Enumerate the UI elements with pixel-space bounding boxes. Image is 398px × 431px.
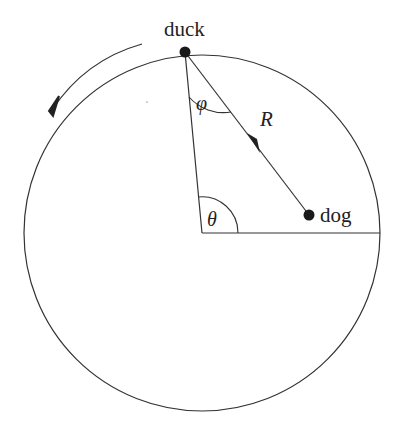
phi-label: φ — [196, 92, 207, 115]
theta-label: θ — [207, 208, 217, 230]
dog-duck-line — [185, 52, 309, 215]
direction-arrow — [52, 44, 142, 110]
duck-dog-diagram: duck dog R φ θ — [0, 0, 398, 431]
theta-arc — [198, 197, 238, 233]
dog-label: dog — [320, 203, 352, 227]
dog-point-icon — [304, 210, 315, 221]
direction-arrow-head-icon — [49, 96, 59, 116]
duck-point-icon — [180, 47, 191, 58]
radius-label: R — [259, 107, 273, 131]
speck — [146, 101, 148, 103]
duck-radius — [185, 52, 202, 233]
duck-label: duck — [164, 17, 205, 41]
